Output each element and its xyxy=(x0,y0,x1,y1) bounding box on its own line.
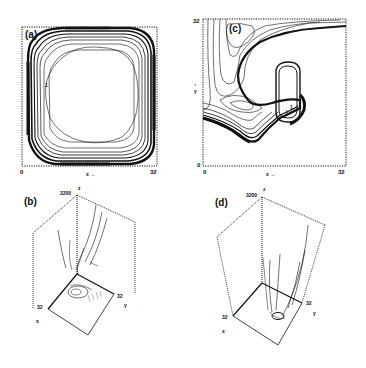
panel-d-y-label: y xyxy=(313,310,316,316)
panel-d-x-max: 32 xyxy=(222,314,228,320)
panel-d-label: (d) xyxy=(215,197,228,208)
panel-d-z-label: z xyxy=(263,186,266,192)
panel-d-plot xyxy=(0,0,366,368)
panel-d-z-max: 3200 xyxy=(246,192,257,198)
panel-d-x-label: x xyxy=(222,328,225,334)
figure: (a) 1 0 32 x → xyxy=(0,0,366,368)
panel-d-y-max: 32 xyxy=(306,300,312,306)
